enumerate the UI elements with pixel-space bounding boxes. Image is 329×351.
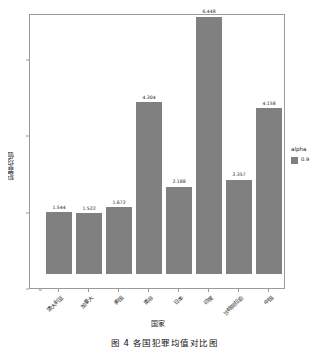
x-tick-mark (118, 289, 119, 292)
x-tick-text: 沙特阿拉伯 (221, 294, 244, 317)
bar-value-label: 2.357 (232, 173, 245, 178)
bar-group: 4.158 (256, 108, 282, 274)
bar-saudi-arabia[interactable] (226, 180, 252, 274)
bar-south-africa[interactable] (136, 102, 162, 274)
bar-value-label: 6.448 (202, 10, 215, 15)
bar-value-label: 1.544 (52, 206, 65, 211)
x-tick-text: 澳大利亚 (45, 294, 65, 314)
bar-australia[interactable] (46, 212, 72, 274)
x-tick-mark (178, 289, 179, 292)
bar-group: 6.448 (196, 17, 222, 274)
bar-value-label: 2.188 (172, 180, 185, 185)
bar-group: 1.544 (46, 212, 72, 274)
chart-figure: 犯罪均值 0 2 4 6 1.544 1.522 1.672 4.304 (0, 0, 329, 351)
x-tick-mark (88, 289, 89, 292)
legend: alpha 0.9 (291, 147, 329, 164)
legend-item[interactable]: 0.9 (291, 157, 329, 164)
x-tick-mark (58, 289, 59, 292)
bar-group: 1.672 (106, 207, 132, 274)
figure-caption: 图 4 各国犯罪均值对比图 (0, 336, 329, 348)
bar-china[interactable] (256, 108, 282, 274)
x-tick-mark (238, 289, 239, 292)
bar-value-label: 1.672 (112, 201, 125, 206)
x-tick-text: 日本 (172, 294, 185, 307)
x-tick-mark (268, 289, 269, 292)
bar-canada[interactable] (76, 213, 102, 274)
bar-group: 1.522 (76, 213, 102, 274)
x-tick-text: 美国 (112, 294, 125, 307)
x-tick-text: 印度 (202, 294, 215, 307)
bar-india[interactable] (196, 17, 222, 274)
bar-value-label: 4.158 (262, 102, 275, 107)
x-tick-text: 加拿大 (78, 294, 94, 310)
x-tick-text: 南非 (142, 294, 155, 307)
x-axis-title: 国家 (0, 318, 315, 328)
y-axis-title: 犯罪均值 (7, 152, 17, 180)
bar-value-label: 1.522 (82, 207, 95, 212)
bar-group: 2.188 (166, 187, 192, 274)
legend-item-label: 0.9 (301, 157, 309, 162)
legend-title: alpha (291, 147, 329, 153)
bar-group: 2.357 (226, 180, 252, 274)
legend-swatch-icon (291, 157, 298, 164)
x-tick-text: 中国 (262, 294, 275, 307)
x-tick-mark (208, 289, 209, 292)
bar-usa[interactable] (106, 207, 132, 274)
x-tick-mark (148, 289, 149, 292)
bar-japan[interactable] (166, 187, 192, 274)
bar-value-label: 4.304 (142, 96, 155, 101)
plot-panel: 1.544 1.522 1.672 4.304 2.188 6.448 (29, 14, 285, 289)
bar-group: 4.304 (136, 102, 162, 274)
plot-area: 1.544 1.522 1.672 4.304 2.188 6.448 (30, 15, 284, 288)
